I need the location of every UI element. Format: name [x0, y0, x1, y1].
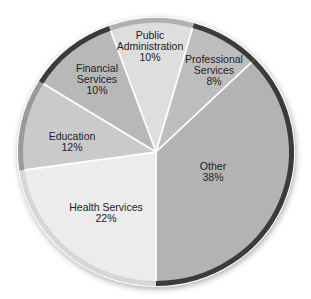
slice-percent: 12% [49, 142, 96, 153]
slice-label-financial-services: FinancialServices10% [76, 63, 118, 96]
slice-percent: 10% [76, 85, 118, 96]
slice-label-public-administration: PublicAdministration10% [117, 30, 184, 63]
slice-label-education: Education12% [49, 131, 96, 153]
slice-label-health-services: Health Services22% [69, 202, 143, 224]
slice-percent: 38% [200, 172, 226, 183]
slice-percent: 10% [117, 52, 184, 63]
slice-percent: 8% [185, 76, 243, 87]
slice-label-other: Other38% [200, 161, 226, 183]
slice-label-professional-services: ProfessionalServices8% [185, 54, 243, 87]
slice-percent: 22% [69, 213, 143, 224]
